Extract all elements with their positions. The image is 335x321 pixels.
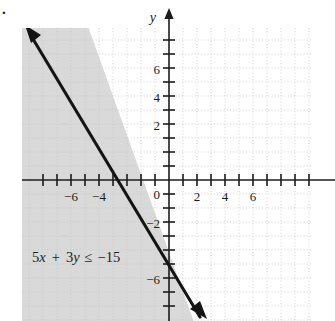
x-tick-label: −4	[92, 189, 106, 204]
x-tick-label: 6	[250, 189, 257, 204]
solution-region	[22, 28, 194, 321]
inequality-constant: −15	[98, 249, 121, 265]
x-tick-label: 2	[194, 189, 201, 204]
inequality-coef-y: 3	[66, 249, 73, 265]
y-tick-label: 4	[154, 90, 161, 105]
y-tick-label: −2	[146, 216, 160, 231]
inequality-label: 5x+3y≤−15	[32, 249, 120, 265]
y-tick-label: 2	[154, 118, 161, 133]
inequality-var-x: x	[38, 249, 46, 265]
y-axis-label: y	[148, 10, 157, 25]
origin-tick-label: 0	[154, 187, 161, 202]
x-tick-labels: −6 −4 2 4 6	[64, 189, 257, 204]
y-tick-label: −6	[146, 272, 160, 287]
inequality-relation-icon: ≤	[85, 249, 93, 265]
y-axis-arrow-icon	[164, 8, 173, 19]
inequality-graph-figure: .	[0, 0, 335, 321]
coordinate-plane: y 0 −6 −4 2 4 6 6 4 2 −2 −6 5x+3y≤−15	[0, 0, 335, 321]
y-tick-label: 6	[154, 62, 161, 77]
inequality-coef-x: 5	[32, 249, 39, 265]
x-tick-label: 4	[222, 189, 229, 204]
inequality-var-y: y	[71, 249, 80, 265]
x-tick-label: −6	[64, 189, 78, 204]
svg-text:5x+3y≤−15: 5x+3y≤−15	[32, 249, 120, 265]
inequality-plus: +	[52, 249, 60, 265]
